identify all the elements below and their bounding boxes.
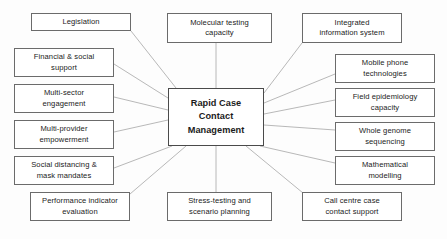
node-performance[interactable]: Performance indicator evaluation	[30, 192, 130, 221]
node-mathematical[interactable]: Mathematical modelling	[335, 156, 435, 185]
node-label-legislation: Legislation	[62, 17, 99, 27]
node-label-mobile-phone: Mobile phone technologies	[362, 58, 409, 78]
node-label-call-centre: Call centre case contact support	[324, 196, 380, 216]
node-mobile-phone[interactable]: Mobile phone technologies	[335, 54, 435, 83]
connector-line-multi-provider	[114, 120, 168, 132]
node-social-distancing[interactable]: Social distancing & mask mandates	[14, 156, 114, 185]
node-molecular[interactable]: Molecular testing capacity	[167, 13, 272, 43]
connector-line-multi-sector	[114, 97, 168, 110]
node-multi-sector[interactable]: Multi-sector engagement	[14, 84, 114, 113]
connector-line-call-centre	[246, 146, 303, 193]
node-label-performance: Performance indicator evaluation	[42, 196, 118, 216]
node-label-stress-testing: Stress-testing and scenario planning	[188, 196, 251, 216]
connector-line-performance	[130, 146, 186, 194]
connector-line-integrated-info	[264, 43, 302, 93]
node-whole-genome[interactable]: Whole genome sequencing	[335, 122, 435, 151]
node-stress-testing[interactable]: Stress-testing and scenario planning	[167, 192, 272, 221]
node-integrated-info[interactable]: Integrated information system	[302, 13, 402, 43]
connector-line-financial-social	[114, 64, 168, 98]
connector-line-whole-genome	[264, 125, 335, 130]
node-label-multi-sector: Multi-sector engagement	[43, 88, 86, 108]
node-label-social-distancing: Social distancing & mask mandates	[31, 160, 97, 180]
node-field-epidemiology[interactable]: Field epidemiology capacity	[335, 88, 435, 117]
node-label-financial-social: Financial & social support	[34, 52, 94, 72]
node-legislation[interactable]: Legislation	[31, 13, 131, 31]
node-call-centre[interactable]: Call centre case contact support	[302, 192, 402, 221]
node-label-multi-provider: Multi-provider empowerment	[40, 124, 89, 144]
node-label-whole-genome: Whole genome sequencing	[359, 126, 411, 146]
connector-line-mathematical	[260, 146, 335, 163]
node-financial-social[interactable]: Financial & social support	[14, 48, 114, 77]
center-node-center[interactable]: Rapid Case Contact Management	[168, 88, 264, 146]
center-node-label: Rapid Case Contact Management	[188, 97, 245, 136]
node-label-field-epidemiology: Field epidemiology capacity	[353, 92, 418, 112]
node-label-molecular: Molecular testing capacity	[190, 18, 249, 38]
node-multi-provider[interactable]: Multi-provider empowerment	[14, 120, 114, 149]
node-label-integrated-info: Integrated information system	[319, 18, 384, 38]
connector-line-social-distancing	[114, 146, 172, 168]
concept-map-diagram: Rapid Case Contact ManagementLegislation…	[0, 0, 447, 239]
connector-line-field-epidemiology	[264, 100, 335, 114]
node-label-mathematical: Mathematical modelling	[362, 160, 408, 180]
